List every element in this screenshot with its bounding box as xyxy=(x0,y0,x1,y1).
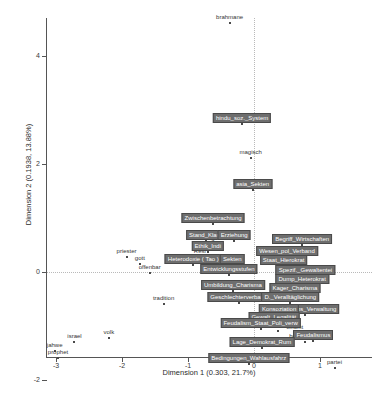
chapter-point-label: Umbildung_Charisma xyxy=(201,280,265,290)
data-point xyxy=(228,274,230,276)
term-point-label: tradition xyxy=(153,295,174,302)
data-point xyxy=(250,157,252,159)
y-tick-mark xyxy=(42,56,47,57)
term-point-label: offenbar xyxy=(139,264,161,271)
data-point xyxy=(57,357,59,359)
data-point xyxy=(108,337,110,339)
data-point xyxy=(212,223,214,225)
chapter-point-label: Entwicklungsstufen xyxy=(200,264,257,274)
chapter-point-label: Heterodoxie ( Tao ) xyxy=(165,254,222,264)
y-axis-title: Dimension 2 (0.1938, 13.88%) xyxy=(24,85,33,265)
data-point xyxy=(233,240,235,242)
data-point xyxy=(207,251,209,253)
data-point xyxy=(73,341,75,343)
chapter-point-label: Feudalismus xyxy=(293,330,333,340)
term-point-label: brahmane xyxy=(216,13,243,20)
y-tick-label: 4 xyxy=(22,52,40,60)
chapter-point-label: Feudalism_Staat_Poli_verw xyxy=(220,318,300,328)
chapter-point-label: Sekten xyxy=(220,254,245,264)
data-point xyxy=(252,189,254,191)
data-point xyxy=(304,314,306,316)
term-point-label: partei xyxy=(327,359,342,366)
data-point xyxy=(229,22,231,24)
chapter-point-label: D._Veralltäglichung xyxy=(261,292,319,302)
chapter-point-label: Ethik_Indi xyxy=(192,241,224,251)
x-axis-title: Dimension 1 (0.303, 21.7%) xyxy=(46,368,372,377)
y-tick-mark xyxy=(42,380,47,381)
y-tick-mark xyxy=(42,272,47,273)
chapter-point-label: hindu_soz._System xyxy=(213,113,271,123)
data-point xyxy=(260,328,262,330)
term-point-label: israel xyxy=(67,333,81,340)
data-point xyxy=(304,341,306,343)
term-point-label: magisch xyxy=(240,148,262,155)
chapter-point-label: Erziehung xyxy=(218,230,251,240)
term-point-label: gott xyxy=(135,255,145,262)
data-point xyxy=(277,330,279,332)
y-axis-line xyxy=(46,18,47,358)
correspondence-analysis-scatter-plot: -3-2-101-2024 kastebrahmanemagischpriest… xyxy=(0,0,378,399)
data-point xyxy=(163,303,165,305)
chapter-point-label: asia_Sekten xyxy=(233,179,272,189)
data-point xyxy=(238,302,240,304)
term-point-label: volk xyxy=(103,329,114,336)
chapter-point-label: Bedingungen_Wahlausfahrz xyxy=(208,353,289,363)
data-point xyxy=(126,256,128,258)
chapter-point-label: Lage_Demokrat_Rum xyxy=(230,337,295,347)
data-point xyxy=(312,340,314,342)
data-point xyxy=(261,347,263,349)
y-tick-label: -2 xyxy=(22,376,40,384)
data-point xyxy=(248,363,250,365)
data-point xyxy=(241,123,243,125)
term-point-label: priester xyxy=(117,247,137,254)
chapter-point-label: Staat_Hierokrat xyxy=(260,255,308,265)
data-point xyxy=(192,264,194,266)
term-point-label: jahwe xyxy=(47,342,63,349)
chapter-point-label: Begriff_Wirtschaften xyxy=(272,234,332,244)
chapter-point-label: Zwischenbetrachtung xyxy=(182,213,245,223)
y-tick-mark xyxy=(42,164,47,165)
y-tick-label: 0 xyxy=(22,268,40,276)
data-point xyxy=(149,272,151,274)
term-point-label: prophet xyxy=(48,349,68,356)
